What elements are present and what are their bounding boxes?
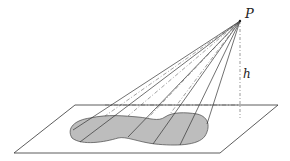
height-label: h [243,67,251,81]
apex-label: P [245,6,254,21]
cone-base-region [70,113,208,145]
apex-point [239,20,241,22]
cone-hidden-generators [105,21,240,119]
cone-diagram: P h [0,0,290,161]
